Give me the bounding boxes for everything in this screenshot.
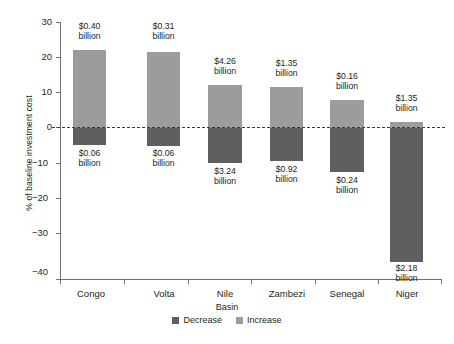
value-label-increase-congo: $0.40 billion <box>59 21 120 42</box>
value-label-line1: $0.92 <box>256 164 317 174</box>
x-tick-mark-5 <box>378 280 379 284</box>
value-label-line2: billion <box>256 68 317 78</box>
value-label-line1: $2.18 <box>376 263 437 273</box>
x-tick-mark-2 <box>188 280 189 284</box>
bar-increase-zambezi[interactable] <box>270 87 303 128</box>
x-category-label-volta: Volta <box>131 288 197 299</box>
bar-decrease-senegal[interactable] <box>330 128 364 172</box>
value-label-line2: billion <box>316 185 378 195</box>
value-label-increase-niger: $1.35 billion <box>376 93 437 114</box>
x-axis-title: Basin <box>0 302 454 312</box>
value-label-decrease-niger: $2.18 billion <box>376 263 437 284</box>
value-label-line2: billion <box>316 81 378 91</box>
value-label-decrease-congo: $0.06 billion <box>59 148 120 169</box>
value-label-line1: $0.16 <box>316 71 378 81</box>
x-tick-mark-0 <box>60 280 61 284</box>
value-label-line1: $0.06 <box>59 148 120 158</box>
legend-item-decrease[interactable]: Decrease <box>172 315 222 325</box>
x-tick-mark-4 <box>315 280 316 284</box>
value-label-line1: $1.35 <box>256 58 317 68</box>
value-label-increase-nile: $4.26 billion <box>194 56 256 77</box>
bar-increase-senegal[interactable] <box>330 100 364 128</box>
value-label-line1: $0.24 <box>316 175 378 185</box>
bar-increase-volta[interactable] <box>147 52 180 128</box>
bar-decrease-volta[interactable] <box>147 128 180 146</box>
legend-label-increase: Increase <box>247 315 282 325</box>
value-label-line1: $1.35 <box>376 93 437 103</box>
value-label-line2: billion <box>59 158 120 168</box>
x-tick-mark-3 <box>251 280 252 284</box>
value-label-line2: billion <box>133 158 194 168</box>
value-label-line1: $3.24 <box>194 166 256 176</box>
x-tick-mark-6 <box>441 280 442 284</box>
value-label-line1: $4.26 <box>194 56 256 66</box>
chart-legend: Decrease Increase <box>0 315 454 325</box>
x-category-label-congo: Congo <box>58 288 124 299</box>
value-label-increase-volta: $0.31 billion <box>133 21 194 42</box>
value-label-line2: billion <box>194 176 256 186</box>
bar-decrease-congo[interactable] <box>73 128 106 145</box>
bar-increase-congo[interactable] <box>73 50 106 128</box>
bar-decrease-nile[interactable] <box>208 128 242 163</box>
legend-swatch-decrease-icon <box>172 317 179 324</box>
value-label-line2: billion <box>376 273 437 283</box>
value-label-line2: billion <box>59 31 120 41</box>
legend-item-increase[interactable]: Increase <box>236 315 282 325</box>
x-category-label-nile: Nile <box>192 288 258 299</box>
value-label-line2: billion <box>133 31 194 41</box>
value-label-line2: billion <box>194 66 256 76</box>
value-label-decrease-senegal: $0.24 billion <box>316 175 378 196</box>
bar-chart: % of baseline investment cost 30 20 10 0… <box>0 0 454 344</box>
bar-decrease-zambezi[interactable] <box>270 128 303 161</box>
x-category-label-zambezi: Zambezi <box>254 288 320 299</box>
value-label-line2: billion <box>376 103 437 113</box>
zero-reference-line <box>52 127 445 128</box>
legend-swatch-increase-icon <box>236 317 243 324</box>
bar-decrease-niger[interactable] <box>390 128 423 262</box>
x-tick-mark-1 <box>124 280 125 284</box>
value-label-increase-senegal: $0.16 billion <box>316 71 378 92</box>
bar-increase-nile[interactable] <box>208 85 242 128</box>
value-label-line1: $0.40 <box>59 21 120 31</box>
value-label-decrease-zambezi: $0.92 billion <box>256 164 317 185</box>
value-label-decrease-nile: $3.24 billion <box>194 166 256 187</box>
value-label-line2: billion <box>256 174 317 184</box>
value-label-decrease-volta: $0.06 billion <box>133 148 194 169</box>
value-label-line1: $0.31 <box>133 21 194 31</box>
value-label-line1: $0.06 <box>133 148 194 158</box>
value-label-increase-zambezi: $1.35 billion <box>256 58 317 79</box>
x-category-label-senegal: Senegal <box>314 288 380 299</box>
x-category-label-niger: Niger <box>374 288 440 299</box>
legend-label-decrease: Decrease <box>183 315 222 325</box>
